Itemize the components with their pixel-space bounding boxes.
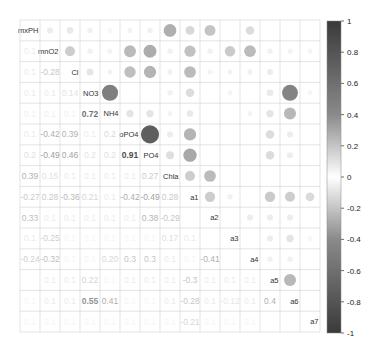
correlation-value: 0.28: [162, 192, 179, 202]
correlation-value: 0.1: [44, 275, 56, 285]
colorbar-tick-label: -0.6: [347, 267, 361, 276]
correlation-value: 0.21: [82, 192, 99, 202]
correlation-circle: [184, 66, 196, 78]
correlation-value: 0.1: [84, 171, 96, 181]
correlation-value: 0.1: [164, 296, 176, 306]
correlation-circle: [168, 111, 173, 116]
correlation-circle: [167, 131, 173, 137]
correlation-circle: [107, 49, 112, 54]
correlation-value: 0.1: [224, 317, 236, 327]
correlation-circle: [65, 46, 75, 56]
variable-label: oPO4: [119, 130, 138, 139]
correlation-circle: [126, 110, 133, 117]
correlation-circle: [186, 26, 195, 35]
correlation-circle: [204, 170, 216, 182]
correlation-circle: [244, 45, 256, 57]
correlation-circle: [248, 111, 253, 116]
correlation-value: 0.1: [104, 171, 116, 181]
correlation-circle: [225, 46, 235, 56]
correlation-circle: [167, 49, 172, 54]
correlation-value: 0.1: [124, 233, 136, 243]
correlation-value: 0.2: [104, 129, 116, 139]
correlation-circle: [266, 110, 273, 117]
correlation-value: 0.33: [22, 213, 39, 223]
correlation-circle: [267, 215, 273, 221]
correlation-circle: [284, 274, 296, 286]
correlation-circle: [127, 28, 132, 33]
correlation-value: 0.1: [84, 317, 96, 327]
correlation-value: 0.1: [84, 233, 96, 243]
correlation-circle: [285, 192, 295, 202]
correlation-value: 0.1: [64, 233, 76, 243]
correlation-value: 0.1: [144, 275, 156, 285]
correlation-circle: [144, 66, 156, 78]
correlation-value: 0.1: [64, 171, 76, 181]
correlation-circle: [247, 69, 252, 74]
correlation-value: -0.28: [180, 296, 200, 306]
correlation-value: 0.1: [124, 317, 136, 327]
correlation-value: 0.1: [164, 317, 176, 327]
correlation-circle: [146, 110, 153, 117]
correlation-circle: [108, 28, 113, 33]
correlation-value: 0.1: [24, 233, 36, 243]
correlation-value: 0.1: [24, 129, 36, 139]
variable-label: PO4: [143, 151, 158, 160]
correlation-value: 0.1: [244, 275, 256, 285]
correlation-value: 0.27: [142, 171, 159, 181]
correlation-value: -0.12: [220, 296, 240, 306]
correlation-value: 0.1: [64, 109, 76, 119]
colorbar-tick-label: 1: [347, 17, 352, 26]
correlation-value: 0.1: [184, 254, 196, 264]
correlation-value: -0.32: [40, 254, 60, 264]
correlation-value: 0.1: [124, 275, 136, 285]
correlation-value: 0.1: [44, 317, 56, 327]
correlation-value: 0.3: [124, 254, 136, 264]
correlation-circle: [267, 235, 273, 241]
correlation-circle: [102, 85, 118, 101]
correlation-value: 0.1: [244, 296, 256, 306]
correlation-circle: [308, 90, 313, 95]
correlation-value: 0.1: [104, 317, 116, 327]
correlation-value: -0.36: [60, 192, 80, 202]
correlation-circle: [287, 49, 292, 54]
correlation-value: 0.1: [64, 213, 76, 223]
correlation-circle: [124, 45, 136, 57]
colorbar-tick-label: 0: [347, 173, 352, 182]
colorbar-tick-label: -0.8: [347, 298, 361, 307]
correlation-value: 0.1: [164, 254, 176, 264]
correlation-circle: [167, 90, 172, 95]
variable-label: a3: [230, 234, 238, 243]
correlation-value: 0.1: [64, 317, 76, 327]
correlation-value: 0.55: [82, 296, 99, 306]
correlation-value: 0.1: [184, 233, 196, 243]
correlation-circle: [267, 257, 272, 262]
correlation-value: 0.1: [64, 254, 76, 264]
correlation-circle: [147, 28, 152, 33]
correlation-value: 0.1: [104, 275, 116, 285]
colorbar-tick-label: 0.2: [347, 142, 359, 151]
variable-label: a5: [270, 276, 278, 285]
correlation-circle: [287, 131, 293, 137]
colorbar-tick-label: 0.4: [347, 111, 359, 120]
correlation-circle: [266, 151, 274, 159]
correlation-value: -0.29: [160, 213, 180, 223]
correlation-circle: [227, 69, 232, 74]
correlation-value: 0.1: [164, 275, 176, 285]
correlation-circle: [306, 192, 315, 201]
correlation-circle: [267, 69, 273, 75]
correlation-value: 0.2: [84, 150, 96, 160]
correlation-value: 0.1: [84, 254, 96, 264]
correlation-value: 0.4: [264, 296, 276, 306]
correlation-value: -0.24: [20, 254, 40, 264]
correlation-value: 0.1: [24, 296, 36, 306]
colorbar-gradient: [327, 21, 341, 333]
correlation-circle: [187, 110, 194, 117]
correlation-circle: [186, 89, 194, 97]
correlation-value: 0.15: [42, 171, 59, 181]
correlation-circle: [287, 215, 293, 221]
correlation-value: 0.46: [62, 150, 79, 160]
correlation-circle: [87, 28, 92, 33]
correlation-value: 0.1: [24, 317, 36, 327]
correlation-value: 0.20: [102, 254, 119, 264]
correlation-circle: [207, 49, 212, 54]
